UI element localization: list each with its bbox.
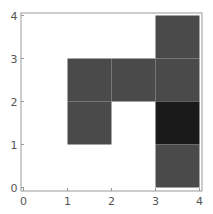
- y-tick-label: 0: [11, 182, 18, 195]
- y-tick-label: 3: [11, 53, 18, 66]
- cell-3-1: [156, 102, 200, 145]
- cell-3-0: [156, 145, 200, 188]
- cell-1-2: [68, 59, 112, 102]
- x-tick-label: 2: [108, 195, 115, 208]
- x-tick-label: 4: [196, 195, 203, 208]
- cell-3-3: [156, 16, 200, 59]
- y-tick-label: 4: [11, 10, 18, 23]
- cell-1-1: [68, 102, 112, 145]
- cell-3-2: [156, 59, 200, 102]
- y-tick-label: 1: [11, 139, 18, 152]
- plot-cells: [68, 16, 200, 188]
- cell-2-2: [112, 59, 156, 102]
- array-plot: 01234 01234: [0, 0, 213, 214]
- x-tick-label: 3: [152, 195, 159, 208]
- y-tick-label: 2: [11, 96, 18, 109]
- y-axis-ticks: 01234: [11, 10, 25, 195]
- x-tick-label: 0: [20, 195, 27, 208]
- x-tick-label: 1: [64, 195, 71, 208]
